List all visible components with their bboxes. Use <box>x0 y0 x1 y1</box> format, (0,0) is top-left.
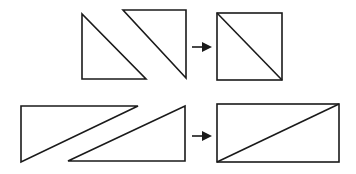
diagram-canvas <box>0 0 356 174</box>
arrow-head <box>202 42 212 52</box>
row-square-composition <box>82 10 282 80</box>
arrow-head <box>202 131 212 141</box>
square-diagonal <box>217 13 282 80</box>
row-rectangle-composition <box>21 104 339 162</box>
triangle-upper-right <box>123 10 186 78</box>
arrow-right-icon <box>192 131 212 141</box>
triangle-upper-left <box>21 106 138 162</box>
arrow-right-icon <box>192 42 212 52</box>
rectangle-diagonal <box>217 104 339 162</box>
triangle-lower-right <box>68 106 185 161</box>
